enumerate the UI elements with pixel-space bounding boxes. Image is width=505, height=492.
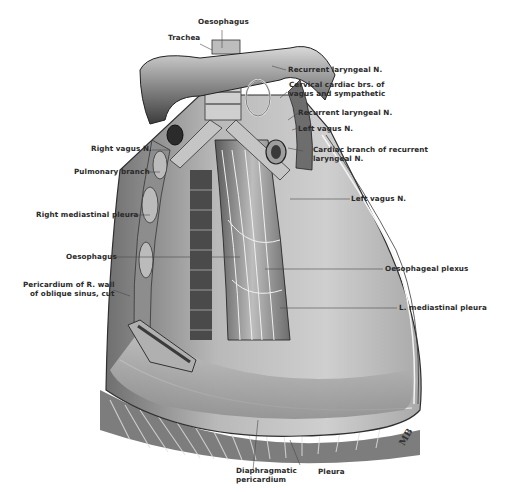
label-cervical-cardiac-line2: vagus and sympathetic — [289, 90, 385, 99]
anatomical-illustration: MB — [0, 0, 505, 492]
vertebral-column — [190, 170, 212, 340]
label-pleura: Pleura — [318, 468, 345, 477]
label-trachea: Trachea — [168, 34, 200, 43]
label-pericardium-r-wall-line2: of oblique sinus, cut — [23, 290, 115, 299]
label-pulmonary-branch: Pulmonary branch — [74, 168, 150, 177]
label-cardiac-branch-line2: laryngeal N. — [313, 155, 428, 164]
label-oesophagus-top: Oesophagus — [198, 18, 249, 27]
label-cardiac-branch: Cardiac branch of recurrent laryngeal N. — [313, 146, 428, 163]
label-right-mediastinal-pleura: Right mediastinal pleura — [36, 211, 139, 220]
label-left-vagus-lower: Left vagus N. — [351, 195, 406, 204]
label-l-mediastinal-pleura: L. mediastinal pleura — [399, 304, 487, 313]
label-right-vagus: Right vagus N. — [91, 145, 152, 154]
label-recurrent-laryngeal-2: Recurrent laryngeal N. — [298, 109, 392, 118]
label-diaphragmatic-pericardium-line2: pericardium — [236, 476, 297, 485]
label-cervical-cardiac: Cervical cardiac brs. of vagus and sympa… — [289, 81, 385, 98]
label-recurrent-laryngeal-1: Recurrent laryngeal N. — [288, 66, 382, 75]
label-oesophagus-mid: Oesophagus — [66, 253, 117, 262]
label-oesophageal-plexus: Oesophageal plexus — [385, 265, 468, 274]
label-diaphragmatic-pericardium: Diaphragmatic pericardium — [236, 467, 297, 484]
label-pericardium-r-wall: Pericardium of R. wall of oblique sinus,… — [23, 281, 115, 298]
label-left-vagus-upper: Left vagus N. — [298, 125, 353, 134]
